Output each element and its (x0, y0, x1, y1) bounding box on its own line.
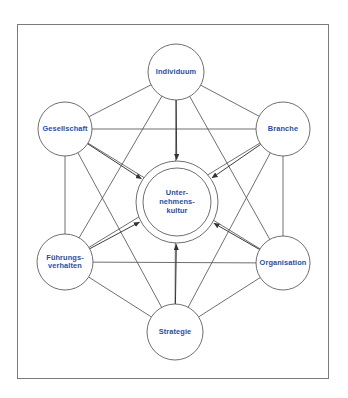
node-label-individuum: Individuum (156, 67, 197, 76)
node-label-branche: Branche (268, 124, 298, 133)
node-fuehrungsverhalten[interactable]: Führungs-verhalten (37, 234, 93, 290)
node-label-organisation: Organisation (260, 258, 307, 267)
node-strategie[interactable]: Strategie (147, 304, 203, 360)
culture-influences-diagram: IndividuumBrancheOrganisationStrategieFü… (0, 0, 348, 398)
node-label-gesellschaft: Gesellschaft (42, 124, 88, 133)
node-individuum[interactable]: Individuum (148, 44, 204, 100)
node-label-strategie: Strategie (159, 327, 192, 336)
diagram-canvas: IndividuumBrancheOrganisationStrategieFü… (0, 0, 348, 398)
node-gesellschaft[interactable]: Gesellschaft (38, 102, 92, 156)
node-unternehmenskultur[interactable]: Unter-nehmens-kultur (136, 161, 218, 243)
node-branche[interactable]: Branche (256, 102, 310, 156)
node-label-fuehrungsverhalten: Führungs-verhalten (46, 253, 84, 271)
node-organisation[interactable]: Organisation (256, 236, 310, 290)
